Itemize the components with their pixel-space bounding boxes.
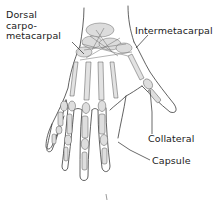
label-line-1: Dorsal <box>6 10 61 21</box>
leader-intermetacarpal <box>136 35 148 48</box>
label-intermetacarpal: Intermetacarpal <box>135 26 213 37</box>
hand-ligament-diagram: Dorsal carpo- metacarpal Intermetacarpal… <box>0 0 220 202</box>
label-line-3: metacarpal <box>6 31 61 42</box>
label-dorsal-carpometacarpal: Dorsal carpo- metacarpal <box>6 10 61 42</box>
hand-ulnar-edge <box>46 46 80 149</box>
label-collateral: Collateral <box>148 134 194 145</box>
label-capsule: Capsule <box>152 156 191 167</box>
forearm-right-edge <box>128 6 134 42</box>
figure-mark <box>106 194 107 200</box>
metacarpals <box>70 54 144 100</box>
leader-capsule <box>118 142 150 160</box>
